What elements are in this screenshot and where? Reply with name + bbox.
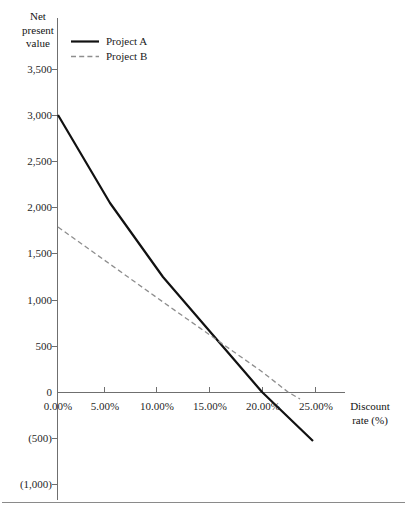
- y-tick-label: 500: [0, 340, 52, 353]
- y-tick-label: (500): [0, 432, 52, 445]
- y-tick-label: 2,000: [0, 201, 52, 214]
- chart-canvas: [0, 0, 407, 509]
- x-tick-label: 5.00%: [80, 400, 130, 413]
- x-axis-ticks: [105, 387, 316, 393]
- y-tick-label: 3,500: [0, 63, 52, 76]
- legend-item-project-b: Project B: [70, 49, 200, 64]
- series-line-project-b: [58, 227, 300, 399]
- x-tick-label: 20.00%: [235, 400, 291, 413]
- y-axis-title-line-1: Net: [12, 10, 64, 24]
- x-tick-label: 15.00%: [182, 400, 238, 413]
- npv-chart: Net present value Discount rate (%) Proj…: [0, 0, 407, 509]
- y-tick-label: (1,000): [0, 478, 52, 491]
- legend-label-project-a: Project A: [106, 34, 147, 49]
- legend-item-project-a: Project A: [70, 34, 200, 49]
- legend-label-project-b: Project B: [106, 49, 147, 64]
- y-axis-title: Net present value: [12, 10, 64, 51]
- x-tick-label: 25.00%: [288, 400, 344, 413]
- y-tick-label: 3,000: [0, 109, 52, 122]
- chart-legend: Project A Project B: [70, 34, 200, 64]
- y-tick-label: 1,000: [0, 294, 52, 307]
- legend-swatch-solid-icon: [70, 34, 100, 49]
- y-axis-title-line-2: present: [12, 24, 64, 38]
- y-tick-label: 2,500: [0, 155, 52, 168]
- y-tick-label: 1,500: [0, 247, 52, 260]
- y-axis-title-line-3: value: [12, 37, 64, 51]
- x-axis-title-line-2: rate (%): [336, 414, 404, 428]
- legend-swatch-dashed-icon: [70, 49, 100, 64]
- x-axis-title: Discount rate (%): [336, 400, 404, 427]
- y-tick-label: 0: [0, 386, 52, 399]
- x-axis-title-line-1: Discount: [336, 400, 404, 414]
- y-axis-ticks: [52, 70, 58, 485]
- x-tick-label: 0.00%: [28, 400, 88, 413]
- x-tick-label: 10.00%: [129, 400, 185, 413]
